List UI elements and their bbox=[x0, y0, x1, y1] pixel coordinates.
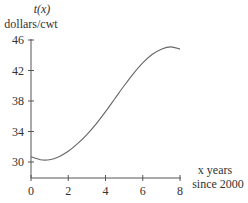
x-tick-label: 8 bbox=[177, 184, 183, 198]
data-line bbox=[31, 47, 180, 160]
y-tick-label: 34 bbox=[12, 125, 24, 139]
y-axis-label-units: dollars/cwt bbox=[4, 17, 58, 31]
y-tick-label: 42 bbox=[12, 64, 24, 78]
x-axis-label-line2: since 2000 bbox=[192, 177, 244, 191]
x-tick-label: 6 bbox=[140, 184, 146, 198]
y-tick-label: 30 bbox=[12, 155, 24, 169]
y-axis-label-function: t(x) bbox=[34, 2, 51, 16]
x-tick-label: 4 bbox=[103, 184, 109, 198]
x-axis-label-line1: x years bbox=[198, 163, 233, 177]
chart: 3034384246 02468 t(x) dollars/cwt x year… bbox=[0, 0, 248, 203]
y-tick-label: 38 bbox=[12, 94, 24, 108]
y-tick-label: 46 bbox=[12, 33, 24, 47]
x-tick-label: 2 bbox=[65, 184, 71, 198]
x-tick-label: 0 bbox=[28, 184, 34, 198]
